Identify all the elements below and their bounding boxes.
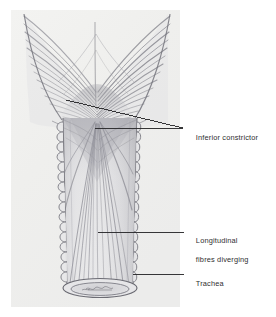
trachea — [57, 118, 141, 298]
label-longitudinal-fibres-line-1: Longitudinal — [196, 236, 238, 245]
label-inferior-constrictor-line-1: Inferior constrictor — [196, 133, 258, 142]
trachea-cut-end — [63, 279, 137, 298]
label-trachea-line-1: Trachea — [196, 279, 224, 288]
label-longitudinal-fibres-line-2: fibres diverging — [196, 255, 249, 264]
anatomical-figure: Inferior constrictor Longitudinal fibres… — [0, 0, 276, 317]
tracheal-lumen — [71, 283, 129, 296]
label-inferior-constrictor: Inferior constrictor — [187, 124, 258, 152]
label-trachea: Trachea — [187, 270, 224, 298]
label-longitudinal-fibres-diverging: Longitudinal fibres diverging — [187, 227, 249, 274]
